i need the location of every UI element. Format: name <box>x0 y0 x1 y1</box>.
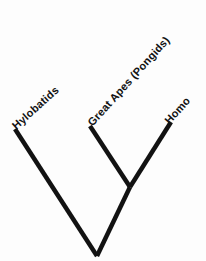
branch-root-stem <box>97 187 130 256</box>
branch-hylobatids <box>15 129 97 256</box>
cladogram-tree <box>0 0 206 261</box>
cladogram-figure: Hylobatids Great Apes (Pongids) Homo <box>0 0 206 261</box>
branch-great-apes <box>90 126 130 187</box>
branch-homo <box>130 122 171 187</box>
